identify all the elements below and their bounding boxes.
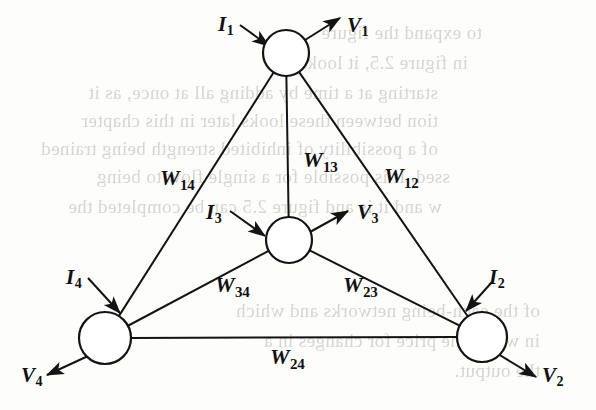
input-current-1-label-subscript: 1	[227, 23, 234, 38]
node-3	[266, 217, 312, 263]
edge-w13	[286, 75, 288, 218]
edge-w24-label-symbol: W	[270, 344, 290, 369]
edge-w14	[118, 72, 274, 317]
node-2	[457, 312, 507, 362]
input-current-2-label-symbol: I	[489, 265, 497, 289]
output-voltage-2-label: V2	[542, 363, 563, 390]
edge-w14-label-symbol: W	[160, 165, 180, 190]
edge-w13-label-subscript: 13	[323, 159, 338, 175]
edge-w23-label-subscript: 23	[363, 284, 378, 300]
node-4	[79, 312, 131, 364]
edge-w12	[298, 71, 468, 317]
edge-w24-label: W24	[270, 344, 305, 373]
output-voltage-3-label-symbol: V	[357, 200, 371, 224]
input-current-4-label: I4	[66, 265, 82, 292]
edge-w23-label: W23	[343, 272, 378, 301]
output-voltage-1-arrow	[305, 18, 340, 40]
output-voltage-1-label-subscript: 1	[362, 24, 369, 39]
edge-w12-label-subscript: 12	[404, 175, 419, 191]
output-voltage-2-label-subscript: 2	[557, 374, 564, 389]
input-current-3-label-symbol: I	[206, 200, 214, 224]
output-voltage-4-label-subscript: 4	[36, 374, 43, 389]
node-layer	[79, 30, 507, 364]
input-current-2-label-subscript: 2	[498, 276, 505, 291]
output-voltage-3-arrow	[310, 211, 348, 232]
figure-canvas: to expand the figurein figure 2.5, it lo…	[0, 0, 596, 410]
output-voltage-1-label: V1	[347, 13, 368, 40]
input-current-1-label: I1	[218, 12, 234, 39]
output-voltage-4-arrow	[47, 356, 88, 375]
input-current-4-label-subscript: 4	[75, 276, 82, 291]
edge-w23-label-symbol: W	[343, 272, 363, 297]
edge-layer	[118, 71, 468, 338]
edge-w12-label: W12	[384, 163, 419, 192]
output-voltage-4-label-symbol: V	[21, 363, 35, 387]
input-current-4-label-symbol: I	[66, 265, 74, 289]
input-current-3-label: I3	[206, 200, 222, 227]
edge-w14-label: W14	[160, 165, 195, 194]
edge-w34-label-symbol: W	[215, 272, 235, 297]
input-current-4-arrow	[88, 278, 120, 313]
edge-w12-label-symbol: W	[384, 163, 404, 188]
edge-w23	[309, 250, 461, 326]
edge-w13-label: W13	[303, 147, 338, 176]
output-voltage-3-label-subscript: 3	[372, 211, 379, 226]
output-voltage-3-label: V3	[357, 200, 378, 227]
input-current-1-label-symbol: I	[218, 12, 226, 36]
edge-w34-label: W34	[215, 272, 250, 301]
edge-w24-label-subscript: 24	[290, 356, 305, 372]
edge-w34-label-subscript: 34	[235, 284, 250, 300]
output-voltage-2-label-symbol: V	[542, 363, 556, 387]
edge-w14-label-subscript: 14	[180, 177, 195, 193]
input-current-3-label-subscript: 3	[215, 211, 222, 226]
output-voltage-1-label-symbol: V	[347, 13, 361, 37]
edge-w24	[130, 337, 458, 338]
output-voltage-2-arrow	[498, 354, 536, 377]
input-current-2-label: I2	[489, 265, 505, 292]
edge-w13-label-symbol: W	[303, 147, 323, 172]
output-voltage-4-label: V4	[21, 363, 42, 390]
node-1	[263, 30, 309, 76]
input-current-3-arrow	[230, 211, 265, 236]
